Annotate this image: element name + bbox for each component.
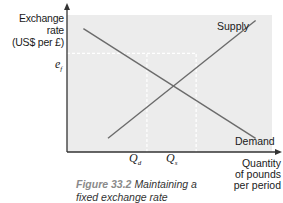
x-axis-label-line3: per period bbox=[221, 180, 281, 191]
x-axis-label: Quantity of pounds per period bbox=[221, 158, 281, 191]
ef-label: ef bbox=[55, 57, 62, 73]
caption-line2: fixed exchange rate bbox=[76, 191, 197, 203]
qs-label: Qs bbox=[166, 151, 177, 167]
demand-label: Demand bbox=[235, 135, 275, 147]
supply-label: Supply bbox=[217, 20, 249, 32]
figure-caption: Figure 33.2 Maintaining a fixed exchange… bbox=[76, 178, 197, 203]
caption-line1: Maintaining a bbox=[134, 178, 196, 190]
y-axis-arrow-icon bbox=[64, 3, 70, 10]
x-axis-arrow-icon bbox=[275, 149, 282, 155]
qd-label: Qd bbox=[129, 151, 141, 167]
y-axis-label-line2: (US$ per £) bbox=[2, 36, 64, 48]
y-axis-label: Exchange rate (US$ per £) bbox=[2, 12, 64, 48]
figure-number: Figure 33.2 bbox=[76, 178, 131, 190]
y-axis-label-line1: Exchange rate bbox=[2, 12, 64, 36]
